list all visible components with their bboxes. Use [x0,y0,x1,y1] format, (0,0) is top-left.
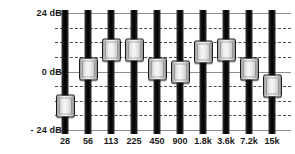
eq-slider-450[interactable] [153,10,162,134]
eq-slider-15k[interactable] [268,10,277,134]
slider-thumb[interactable] [56,94,75,117]
frequency-label-900: 900 [172,136,187,146]
slider-thumb[interactable] [79,58,98,81]
eq-slider-7.2k[interactable] [245,10,254,134]
slider-track[interactable] [131,10,138,134]
slider-thumb[interactable] [102,38,121,61]
slider-thumb[interactable] [148,58,167,81]
slider-track[interactable] [200,10,207,134]
slider-thumb[interactable] [194,41,213,64]
slider-thumb[interactable] [240,58,259,81]
frequency-label-15k: 15k [264,136,279,146]
frequency-label-1.8k: 1.8k [194,136,212,146]
eq-slider-28[interactable] [61,10,70,134]
slider-track[interactable] [223,10,230,134]
db-axis-label: 0 dB [42,67,62,77]
eq-slider-56[interactable] [84,10,93,134]
frequency-label-450: 450 [149,136,164,146]
slider-track[interactable] [108,10,115,134]
db-axis-label: 24 dB [36,8,62,18]
eq-slider-113[interactable] [107,10,116,134]
eq-slider-900[interactable] [176,10,185,134]
slider-thumb[interactable] [125,38,144,61]
slider-thumb[interactable] [263,75,282,98]
slider-thumb[interactable] [171,60,190,83]
frequency-label-56: 56 [83,136,93,146]
graphic-equalizer: 24 dB0 dB- 24 dB 28561132254509001.8k3.6… [0,0,295,154]
slider-track[interactable] [269,10,276,134]
frequency-label-225: 225 [126,136,141,146]
slider-thumb[interactable] [217,38,236,61]
db-axis-label: - 24 dB [31,125,62,135]
eq-slider-1.8k[interactable] [199,10,208,134]
frequency-label-28: 28 [60,136,70,146]
eq-slider-225[interactable] [130,10,139,134]
frequency-label-3.6k: 3.6k [217,136,235,146]
frequency-label-113: 113 [104,136,119,146]
frequency-label-7.2k: 7.2k [240,136,258,146]
eq-slider-3.6k[interactable] [222,10,231,134]
